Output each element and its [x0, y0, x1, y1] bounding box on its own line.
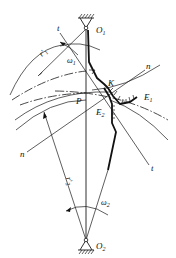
- label-t-bottom: t: [151, 163, 154, 173]
- radius-r2-line: [44, 112, 86, 240]
- pivot-support-o1: [78, 14, 94, 30]
- pivot-support-o2: [78, 238, 94, 254]
- label-t-top: t: [57, 23, 60, 33]
- gear-meshing-diagram: O1 O2 P K E1 E2 t t n n ω1 ω2 r'1 r'2: [0, 0, 176, 258]
- label-e1: E1: [143, 92, 153, 103]
- label-n-bottom: n: [20, 149, 25, 159]
- label-o2: O2: [96, 241, 106, 252]
- r2-arrowhead: [43, 112, 47, 119]
- omega2-arrowhead: [66, 207, 71, 212]
- label-r2: r'2: [63, 176, 75, 187]
- gear1-arc-left: [10, 45, 62, 95]
- omega2-arc: [66, 206, 108, 215]
- label-k: K: [107, 78, 115, 88]
- label-o1: O1: [96, 25, 106, 36]
- label-e2: E2: [95, 107, 105, 118]
- label-p: P: [75, 96, 82, 106]
- label-omega2: ω2: [101, 198, 110, 208]
- pitch-circle-1-left: [12, 71, 86, 100]
- label-r1: r'1: [37, 47, 50, 60]
- label-omega1: ω1: [67, 56, 76, 66]
- r1-arrowhead: [38, 71, 43, 76]
- profile-e2: [104, 88, 116, 170]
- label-n-top: n: [146, 61, 151, 71]
